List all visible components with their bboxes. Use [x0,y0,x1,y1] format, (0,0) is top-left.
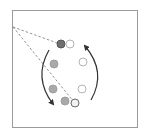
circle-open-top-right [66,40,74,48]
circle-gray-bottom-left [61,97,69,105]
rotation-diagram [0,0,145,135]
circle-dark-top-left [57,40,65,48]
circle-gray-left-2 [50,60,58,68]
diagram-frame [13,11,138,128]
circle-ringed-bottom-right [71,99,79,107]
circle-gray-left-3 [49,85,57,93]
circle-open-right-3 [78,85,86,93]
circle-open-right-2 [79,58,87,66]
